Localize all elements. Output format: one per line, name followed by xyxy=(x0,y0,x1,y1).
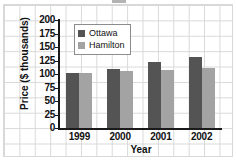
legend-label-ottawa: Ottawa xyxy=(89,28,118,39)
y-tick-mark xyxy=(55,88,59,89)
bar-ottawa-1999 xyxy=(66,73,79,128)
y-tick-mark xyxy=(55,128,59,129)
y-tick-mark xyxy=(55,101,59,102)
chart-legend: Ottawa Hamilton xyxy=(74,24,131,55)
x-axis-title: Year xyxy=(59,144,223,155)
chart-screenshot: 0255075100125150175200 Price ($ thousand… xyxy=(0,0,236,164)
bar-hamilton-1999 xyxy=(79,73,92,128)
x-tick-label-2001: 2001 xyxy=(141,131,182,142)
y-tick-mark xyxy=(55,47,59,48)
legend-swatch-icon-hamilton xyxy=(78,42,85,49)
bar-ottawa-2000 xyxy=(107,69,120,128)
legend-item-hamilton: Hamilton xyxy=(78,39,125,51)
legend-label-hamilton: Hamilton xyxy=(89,40,125,51)
legend-item-ottawa: Ottawa xyxy=(78,27,125,39)
y-axis-title: Price ($ thousands) xyxy=(19,4,30,124)
bar-hamilton-2002 xyxy=(202,68,215,128)
y-tick-mark xyxy=(55,61,59,62)
x-tick-label-1999: 1999 xyxy=(59,131,100,142)
y-tick-mark xyxy=(55,74,59,75)
bar-hamilton-2001 xyxy=(161,70,174,128)
legend-swatch-icon-ottawa xyxy=(78,30,85,37)
bar-ottawa-2001 xyxy=(148,62,161,128)
x-tick-label-2000: 2000 xyxy=(100,131,141,142)
x-axis-line xyxy=(58,128,222,130)
y-tick-mark xyxy=(55,115,59,116)
x-tick-label-2002: 2002 xyxy=(181,131,222,142)
y-tick-label: 0 xyxy=(14,123,55,133)
bar-hamilton-2000 xyxy=(120,71,133,128)
bar-chart-plot: 0255075100125150175200 Price ($ thousand… xyxy=(0,0,236,164)
y-tick-mark xyxy=(55,34,59,35)
y-tick-mark xyxy=(55,20,59,21)
bar-ottawa-2002 xyxy=(189,57,202,128)
